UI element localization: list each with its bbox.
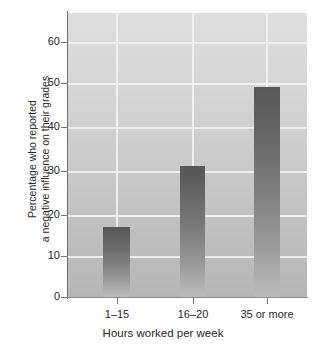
y-axis-title: Percentage who reported a negative influ… (26, 9, 52, 309)
gridline-horizontal-50 (68, 83, 307, 85)
x-tick-label-35-or-more: 35 or more (240, 308, 293, 320)
y-tick-mark-30 (61, 171, 67, 172)
bar-chart-figure: 60 50 40 30 20 10 0 1–15 16–20 35 or mor… (0, 0, 326, 349)
x-axis-title: Hours worked per week (0, 327, 326, 339)
y-axis-title-line-2: a negative influence on their grades (39, 9, 52, 309)
y-tick-mark-50 (61, 83, 67, 84)
gridline-horizontal-60 (68, 42, 307, 44)
x-tick-label-16-20: 16–20 (178, 308, 209, 320)
plot-area (68, 13, 307, 297)
x-tick-label-1-15: 1–15 (105, 308, 129, 320)
y-axis-title-line-1: Percentage who reported (26, 9, 39, 309)
y-tick-mark-40 (61, 127, 67, 128)
x-axis-line (67, 297, 308, 298)
y-tick-mark-20 (61, 215, 67, 216)
y-tick-mark-0 (61, 297, 67, 298)
y-axis-line (67, 11, 68, 299)
x-tick-mark-1-15 (117, 298, 118, 304)
x-tick-mark-35-or-more (267, 298, 268, 304)
y-tick-mark-60 (61, 42, 67, 43)
bar-35-or-more (254, 87, 280, 297)
bar-1-15 (103, 227, 130, 297)
y-tick-mark-10 (61, 256, 67, 257)
x-tick-mark-16-20 (193, 298, 194, 304)
bar-16-20 (180, 166, 205, 297)
